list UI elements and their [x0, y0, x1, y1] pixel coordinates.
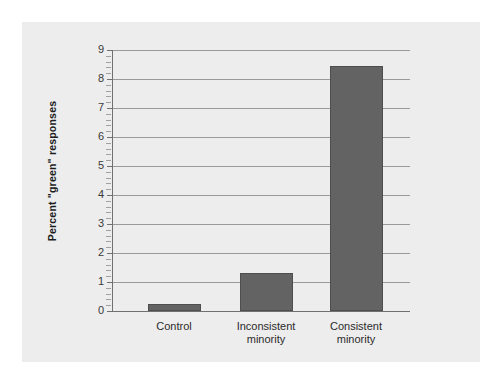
y-tick-major — [107, 108, 113, 109]
y-tick-label-wrap: 4 — [76, 195, 104, 196]
y-tick-minor — [106, 201, 111, 202]
y-tick-label-wrap: 2 — [76, 253, 104, 254]
y-tick-minor — [106, 270, 111, 271]
y-tick-minor — [106, 218, 111, 219]
y-tick-minor — [106, 178, 111, 179]
y-tick-major — [107, 79, 113, 80]
y-tick-label: 3 — [78, 218, 104, 229]
y-tick-minor — [106, 212, 111, 213]
bar-inconsistent-minority — [240, 273, 293, 311]
y-tick-minor — [106, 91, 111, 92]
y-tick-label: 2 — [78, 247, 104, 258]
y-tick-label-wrap: 6 — [76, 137, 104, 138]
y-tick-label: 7 — [78, 102, 104, 113]
y-tick-major — [107, 166, 113, 167]
y-tick-minor — [106, 305, 111, 306]
y-tick-major — [107, 282, 113, 283]
y-tick-minor — [106, 143, 111, 144]
y-tick-label-wrap: 1 — [76, 282, 104, 283]
bar-control — [148, 304, 201, 311]
y-axis-title: Percent "green" responses — [46, 91, 58, 251]
gridline — [112, 311, 410, 312]
y-tick-minor — [106, 299, 111, 300]
y-tick-minor — [106, 149, 111, 150]
y-tick-major — [107, 195, 113, 196]
y-tick-minor — [106, 125, 111, 126]
y-tick-label: 5 — [78, 160, 104, 171]
y-tick-minor — [106, 247, 111, 248]
y-tick-minor — [106, 131, 111, 132]
y-tick-label-wrap: 8 — [76, 79, 104, 80]
y-tick-minor — [106, 67, 111, 68]
y-tick-minor — [106, 265, 111, 266]
y-tick-major — [107, 50, 113, 51]
y-tick-label-wrap: 5 — [76, 166, 104, 167]
y-tick-label: 0 — [78, 305, 104, 316]
y-tick-major — [107, 137, 113, 138]
y-tick-major — [107, 224, 113, 225]
x-tick-label: Consistentminority — [301, 320, 411, 346]
y-tick-minor — [106, 96, 111, 97]
y-tick-label: 1 — [78, 276, 104, 287]
y-tick-label-wrap: 0 — [76, 311, 104, 312]
y-tick-minor — [106, 154, 111, 155]
y-tick-minor — [106, 236, 111, 237]
y-tick-label: 4 — [78, 189, 104, 200]
y-tick-minor — [106, 160, 111, 161]
y-tick-minor — [106, 73, 111, 74]
y-tick-minor — [106, 183, 111, 184]
y-tick-minor — [106, 62, 111, 63]
y-axis-line — [112, 50, 113, 312]
y-tick-label: 6 — [78, 131, 104, 142]
y-tick-minor — [106, 241, 111, 242]
y-tick-minor — [106, 294, 111, 295]
y-tick-minor — [106, 207, 111, 208]
y-tick-minor — [106, 172, 111, 173]
y-tick-minor — [106, 114, 111, 115]
y-tick-major — [107, 311, 113, 312]
y-tick-minor — [106, 85, 111, 86]
bar-chart: Percent "green" responses 0123456789 Con… — [0, 0, 499, 372]
y-tick-minor — [106, 189, 111, 190]
y-tick-minor — [106, 288, 111, 289]
y-tick-label: 9 — [78, 44, 104, 55]
y-tick-minor — [106, 230, 111, 231]
bar-consistent-minority — [330, 66, 383, 311]
gridline — [112, 50, 410, 51]
y-tick-label-wrap: 7 — [76, 108, 104, 109]
y-tick-label-wrap: 9 — [76, 50, 104, 51]
y-tick-minor — [106, 56, 111, 57]
y-tick-label: 8 — [78, 73, 104, 84]
y-tick-minor — [106, 120, 111, 121]
y-tick-minor — [106, 276, 111, 277]
y-tick-minor — [106, 102, 111, 103]
y-tick-label-wrap: 3 — [76, 224, 104, 225]
y-tick-major — [107, 253, 113, 254]
y-tick-minor — [106, 259, 111, 260]
